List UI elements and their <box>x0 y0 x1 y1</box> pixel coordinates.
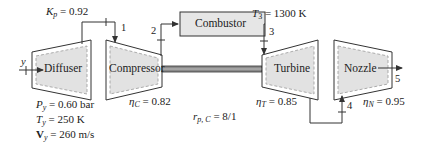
state-2-label: 2 <box>151 25 156 37</box>
param-py: Py = 0.60 bar <box>36 98 94 110</box>
param-rpc: rp, C = 8/1 <box>193 110 236 122</box>
state-1-label: 1 <box>121 22 126 34</box>
duct-4 <box>310 96 342 123</box>
diffuser-label: Diffuser <box>44 62 82 75</box>
state-3-label: 3 <box>269 26 274 38</box>
param-eta-n: ηN = 0.95 <box>363 95 405 107</box>
param-vy: Vy = 260 m/s <box>36 128 94 140</box>
param-eta-t: ηT = 0.85 <box>256 95 297 107</box>
state-y-label: y <box>21 56 26 68</box>
nozzle-label: Nozzle <box>344 62 377 75</box>
combustor-label: Combustor <box>195 17 246 30</box>
compressor-label: Compressor <box>109 62 165 75</box>
turbine-label: Turbine <box>274 62 310 75</box>
state-5-label: 5 <box>395 73 400 85</box>
param-ty: Ty = 250 K <box>36 113 85 125</box>
param-t3: T3 = 1300 K <box>252 7 307 19</box>
param-kp: Kp = 0.92 <box>46 5 88 17</box>
param-eta-c: ηC = 0.82 <box>129 95 171 107</box>
state-4-label: 4 <box>347 100 352 112</box>
